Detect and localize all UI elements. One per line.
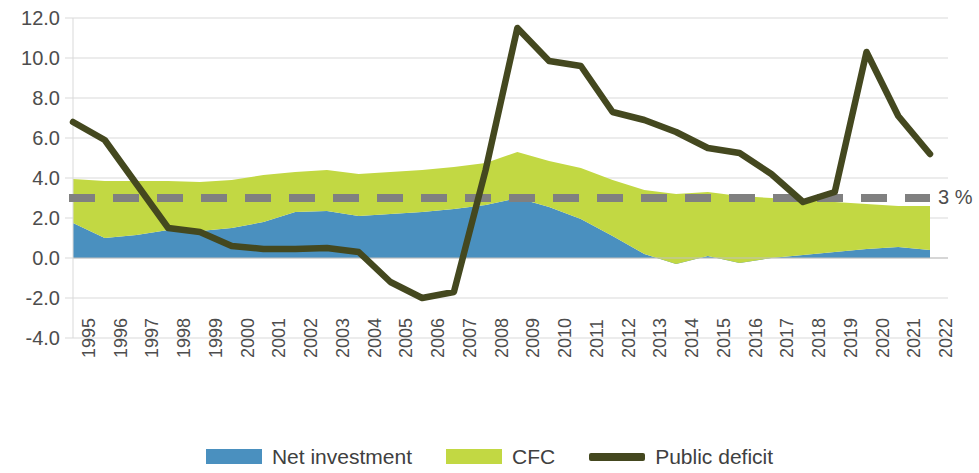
x-axis-tick-label: 2010 xyxy=(556,318,574,358)
x-axis-tick-label: 2014 xyxy=(683,318,701,358)
y-axis-tick-label: 12.0 xyxy=(0,8,60,28)
x-axis-tick-label: 2011 xyxy=(588,319,606,358)
x-axis-tick-label: 2001 xyxy=(270,318,288,358)
x-axis-tick-label: 2015 xyxy=(715,318,733,358)
x-axis-tick-label: 2003 xyxy=(334,318,352,358)
legend-label: CFC xyxy=(512,446,555,467)
y-axis-tick-label: 2.0 xyxy=(0,208,60,228)
x-axis-tick-label: 2012 xyxy=(620,318,638,358)
reference-line-label: 3 % xyxy=(938,187,972,207)
legend-label: Public deficit xyxy=(655,446,773,467)
x-axis-tick-label: 2009 xyxy=(524,318,542,358)
x-axis-tick-label: 1995 xyxy=(80,318,98,358)
x-axis-tick-label: 2008 xyxy=(493,318,511,358)
x-axis-tick-label: 2004 xyxy=(366,318,384,358)
y-axis-tick-label: 0.0 xyxy=(0,248,60,268)
x-axis-tick-label: 2005 xyxy=(397,318,415,358)
y-axis-tick-label: 8.0 xyxy=(0,88,60,108)
x-axis-tick-label: 2013 xyxy=(651,318,669,358)
stacked-areas-group xyxy=(73,152,930,264)
y-axis-tick-label: 4.0 xyxy=(0,168,60,188)
chart-legend: Net investmentCFCPublic deficit xyxy=(0,440,979,473)
chart-container: 12.010.08.06.04.02.00.0-2.0-4.0 19951996… xyxy=(0,0,979,473)
y-axis-tick-label: 6.0 xyxy=(0,128,60,148)
legend-item[interactable]: Public deficit xyxy=(589,446,773,467)
chart-plot-area xyxy=(0,0,979,473)
y-axis-tick-label: -4.0 xyxy=(0,328,60,348)
legend-color-swatch xyxy=(206,449,262,464)
x-axis-tick-label: 2002 xyxy=(302,318,320,358)
x-axis-tick-label: 2017 xyxy=(778,318,796,358)
legend-line-marker xyxy=(589,453,645,461)
x-axis-tick-label: 2006 xyxy=(429,318,447,358)
legend-label: Net investment xyxy=(272,446,412,467)
x-axis-tick-label: 2016 xyxy=(747,318,765,358)
x-axis-tick-label: 2022 xyxy=(937,318,955,358)
x-axis-tick-label: 2000 xyxy=(239,318,257,358)
legend-item[interactable]: Net investment xyxy=(206,446,412,467)
x-axis-tick-label: 2021 xyxy=(905,318,923,358)
y-axis-tick-label: -2.0 xyxy=(0,288,60,308)
x-axis-tick-label: 2007 xyxy=(461,318,479,358)
x-axis-tick-label: 1997 xyxy=(143,318,161,358)
x-axis-tick-label: 2019 xyxy=(842,318,860,358)
x-axis-tick-label: 2020 xyxy=(874,318,892,358)
x-axis-tick-label: 1999 xyxy=(207,318,225,358)
legend-item[interactable]: CFC xyxy=(446,446,555,467)
y-axis-tick-label: 10.0 xyxy=(0,48,60,68)
legend-color-swatch xyxy=(446,449,502,464)
x-axis-tick-label: 1996 xyxy=(112,318,130,358)
x-axis-tick-label: 1998 xyxy=(175,318,193,358)
x-axis-tick-label: 2018 xyxy=(810,318,828,358)
